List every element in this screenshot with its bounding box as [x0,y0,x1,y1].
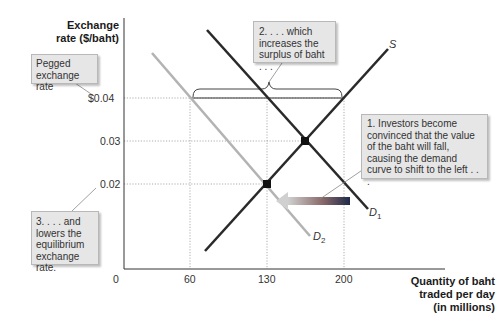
y-axis-title-line2: rate ($/baht) [44,32,119,45]
demand2-label: D2 [313,230,325,245]
x-axis-title-line3: (in millions) [370,301,495,314]
y-tick-0.04: $0.04 [88,92,114,104]
callout-step2-line3: surplus of baht . . . [259,49,330,72]
x-axis-title: Quantity of baht traded per day (in mill… [370,275,495,314]
callout-step3-line1: 3. . . . and [36,216,94,228]
callout-step1-line3: of the baht will fall, [367,141,482,153]
demand1-label: D1 [369,206,381,221]
surplus-brace [193,82,342,97]
step3-leader [72,188,96,211]
callout-step3: 3. . . . and lowers the equilibrium exch… [31,211,99,265]
callout-step3-line3: equilibrium [36,239,94,251]
equilibrium-point-d1 [301,137,309,145]
equilibrium-point-d2 [263,180,271,188]
y-tick-0.03: 0.03 [100,135,120,147]
callout-step1-line4: causing the demand [367,153,482,165]
callout-step1-line5: curve to shift to the left . . . [367,164,482,187]
gridlines [124,98,344,269]
callout-step2-line1: 2. . . . which [259,26,330,38]
y-tick-0.02: 0.02 [100,178,120,190]
callout-pegged-rate: Pegged exchange rate [31,54,98,84]
callout-step1-line1: 1. Investors become [367,118,482,130]
callout-step2-line2: increases the [259,38,330,50]
callout-step2: 2. . . . which increases the surplus of … [253,21,336,63]
callout-step3-line4: exchange rate. [36,251,94,274]
x-tick-200: 200 [335,273,353,285]
callout-step1-line2: convinced that the value [367,130,482,142]
callout-pegged-line1: Pegged [36,58,93,70]
callout-step1: 1. Investors become convinced that the v… [361,114,488,179]
y-axis-title-line1: Exchange [44,19,119,32]
x-axis-title-line2: traded per day [370,288,495,301]
supply-label: S [389,38,396,50]
callout-step3-line2: lowers the [36,228,94,240]
x-tick-60: 60 [184,273,196,285]
x-tick-130: 130 [258,273,276,285]
shift-left-arrow [276,192,350,210]
callout-pegged-line2: exchange rate [36,70,93,93]
x-tick-0: 0 [113,273,119,285]
y-axis-title: Exchange rate ($/baht) [44,19,119,45]
x-axis-title-line1: Quantity of baht [370,275,495,288]
